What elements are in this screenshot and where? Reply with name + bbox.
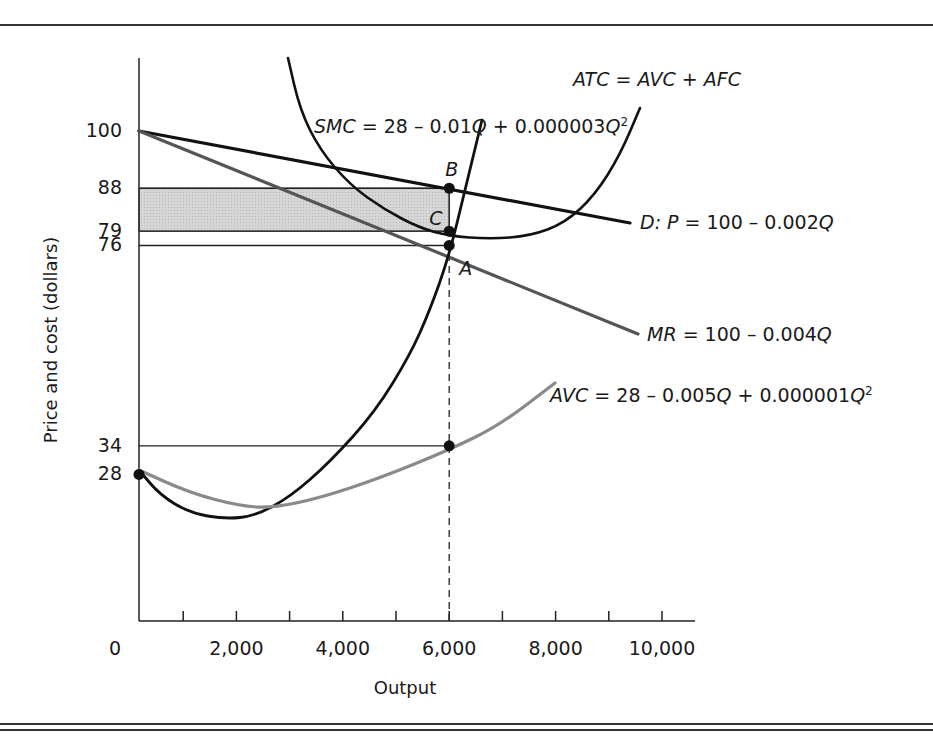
point-C bbox=[444, 226, 455, 237]
y-axis-title: Price and cost (dollars) bbox=[40, 237, 61, 444]
point-q6000-34 bbox=[444, 440, 455, 451]
x-tick-label: 2,000 bbox=[191, 639, 281, 658]
y-tick-label: 100 bbox=[82, 121, 122, 140]
y-tick-label: 76 bbox=[82, 235, 122, 254]
point-label-B: B bbox=[445, 160, 458, 179]
mr-label: MR = 100 – 0.004Q bbox=[647, 325, 832, 344]
x-tick-label: 8,000 bbox=[511, 639, 601, 658]
point-q0-28 bbox=[134, 469, 145, 480]
smc-label: SMC = 28 – 0.01Q + 0.000003Q2 bbox=[314, 116, 628, 136]
x-tick-label: 0 bbox=[70, 639, 160, 658]
demand-label: D: P = 100 – 0.002Q bbox=[640, 213, 834, 232]
y-tick-label: 88 bbox=[82, 178, 122, 197]
chart-plot-area bbox=[0, 0, 933, 739]
point-B bbox=[444, 183, 455, 194]
x-tick-label: 6,000 bbox=[404, 639, 494, 658]
x-tick-label: 4,000 bbox=[298, 639, 388, 658]
avc-label: AVC = 28 – 0.005Q + 0.000001Q2 bbox=[550, 385, 873, 405]
mr-curve bbox=[139, 131, 638, 334]
x-tick-label: 10,000 bbox=[617, 639, 707, 658]
point-label-C: C bbox=[429, 209, 442, 228]
point-A bbox=[444, 240, 455, 251]
reference-lines bbox=[139, 188, 449, 621]
atc-label: ATC = AVC + AFC bbox=[573, 70, 741, 89]
y-tick-label: 34 bbox=[82, 436, 122, 455]
x-axis-title: Output bbox=[374, 677, 437, 698]
y-tick-label: 28 bbox=[82, 464, 122, 483]
point-label-A: A bbox=[459, 259, 472, 278]
